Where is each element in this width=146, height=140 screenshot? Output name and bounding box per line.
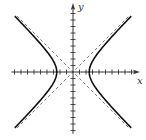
- y-axis-label: y: [77, 1, 84, 12]
- x-axis-label: x: [137, 75, 143, 86]
- hyperbola-plot: x y: [0, 0, 146, 140]
